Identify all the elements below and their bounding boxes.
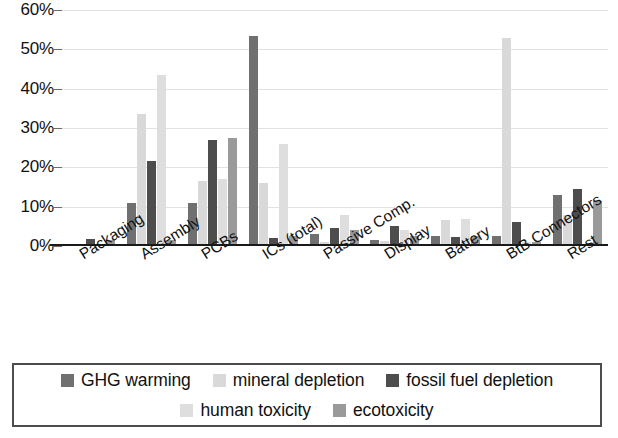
bar-group (304, 10, 365, 246)
bar (249, 36, 258, 246)
bar (157, 75, 166, 246)
legend-entry[interactable]: human toxicity (180, 400, 310, 421)
legend-swatch-icon (333, 404, 346, 417)
plot-area (60, 10, 608, 246)
bar-chart-figure: 0%10%20%30%40%50%60% PackagingAssemblyPC… (0, 0, 618, 438)
bar-group (486, 10, 547, 246)
bar (208, 140, 217, 246)
chart-legend: GHG warmingmineral depletionfossil fuel … (12, 363, 602, 427)
y-axis: 0%10%20%30%40%50%60% (0, 0, 60, 250)
bar-group (425, 10, 486, 246)
legend-swatch-icon (61, 374, 74, 387)
bar-groups (60, 10, 608, 246)
legend-swatch-icon (180, 404, 193, 417)
legend-label: fossil fuel depletion (406, 370, 553, 391)
legend-swatch-icon (386, 374, 399, 387)
legend-label: ecotoxicity (353, 400, 434, 421)
plot-region: 0%10%20%30%40%50%60% PackagingAssemblyPC… (0, 0, 618, 250)
x-axis: PackagingAssemblyPCBsICs (total)Passive … (60, 248, 608, 353)
y-axis-tick-mark (52, 246, 62, 247)
y-axis-tick-label: 0% (30, 236, 54, 256)
legend-row: human toxicityecotoxicity (14, 395, 600, 425)
legend-entry[interactable]: mineral depletion (213, 370, 365, 391)
legend-label: GHG warming (81, 370, 191, 391)
bar (259, 183, 268, 246)
y-axis-tick-label: 40% (21, 79, 54, 99)
legend-label: mineral depletion (233, 370, 365, 391)
legend-entry[interactable]: ecotoxicity (333, 400, 434, 421)
legend-row: GHG warmingmineral depletionfossil fuel … (14, 365, 600, 395)
legend-swatch-icon (213, 374, 226, 387)
bar (147, 161, 156, 246)
bar-group (182, 10, 243, 246)
y-axis-tick-label: 10% (21, 197, 54, 217)
y-axis-tick-label: 50% (21, 39, 54, 59)
bar (198, 181, 207, 246)
y-axis-tick-label: 60% (21, 0, 54, 20)
legend-label: human toxicity (200, 400, 310, 421)
bar-group (243, 10, 304, 246)
bar (502, 38, 511, 246)
y-axis-tick-label: 20% (21, 157, 54, 177)
legend-entry[interactable]: GHG warming (61, 370, 191, 391)
legend-entry[interactable]: fossil fuel depletion (386, 370, 553, 391)
y-axis-tick-label: 30% (21, 118, 54, 138)
bar-group (121, 10, 182, 246)
bar-group (60, 10, 121, 246)
